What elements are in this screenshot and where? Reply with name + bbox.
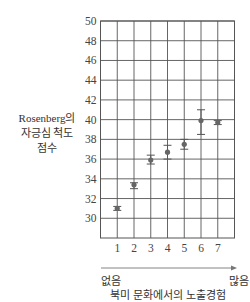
data-point xyxy=(215,120,220,125)
x-tick-label: 7 xyxy=(215,242,221,254)
y-tick-label: 38 xyxy=(85,133,97,145)
data-point xyxy=(131,182,136,187)
y-axis-label-line-2: 자긍심 척도 xyxy=(21,127,74,139)
y-tick-label: 36 xyxy=(85,153,97,165)
x-low-label: 없음 xyxy=(101,275,121,287)
x-tick-label: 6 xyxy=(198,242,204,254)
y-axis-label-line-3: 점수 xyxy=(37,142,57,154)
y-tick-label: 30 xyxy=(85,212,97,224)
x-tick-label: 1 xyxy=(114,242,120,254)
arrow-head-icon xyxy=(231,266,237,271)
x-tick-label: 4 xyxy=(165,242,171,254)
y-tick-label: 42 xyxy=(85,94,97,106)
x-tick-label: 5 xyxy=(181,242,187,254)
x-high-label: 많음 xyxy=(229,275,249,287)
grid xyxy=(101,21,235,238)
y-tick-label: 34 xyxy=(85,173,97,185)
data-point xyxy=(165,150,170,155)
y-tick-label: 44 xyxy=(85,74,97,86)
x-tick-label: 2 xyxy=(131,242,137,254)
y-tick-labels: 3032343638404244464850 xyxy=(85,15,97,224)
y-tick-label: 46 xyxy=(85,54,97,66)
data-point xyxy=(148,157,153,162)
x-tick-label: 3 xyxy=(148,242,154,254)
x-direction-arrow xyxy=(101,266,237,271)
y-axis-label: Rosenberg의 자긍심 척도 점수 xyxy=(19,112,76,154)
data-point xyxy=(115,206,120,211)
x-tick-labels: 1234567 xyxy=(114,242,221,254)
x-axis-label: 북미 문화에서의 노출경험 xyxy=(110,289,226,301)
y-tick-label: 32 xyxy=(85,193,97,205)
y-tick-label: 50 xyxy=(85,15,97,27)
data-point xyxy=(182,142,187,147)
y-tick-label: 48 xyxy=(85,35,97,47)
y-tick-label: 40 xyxy=(85,114,97,126)
chart: 3032343638404244464850 1234567 Rosenberg… xyxy=(0,0,250,302)
y-axis-label-line-1: Rosenberg의 xyxy=(19,112,76,124)
data-point xyxy=(198,118,203,123)
